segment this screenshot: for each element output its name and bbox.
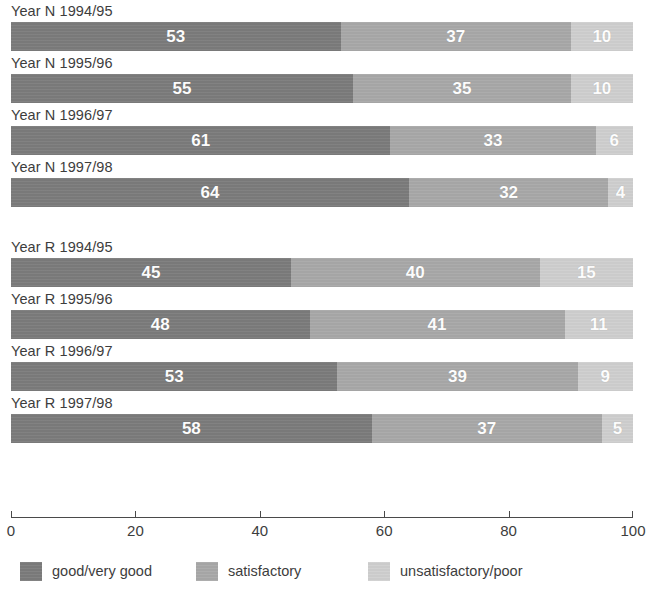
bar-track: 58375 <box>11 414 633 443</box>
bar-segment-value: 61 <box>191 132 210 149</box>
bar-segment-value: 53 <box>166 28 185 45</box>
bar-track: 533710 <box>11 22 633 51</box>
axis-tick <box>135 511 136 518</box>
bar-segment-value: 39 <box>448 368 467 385</box>
bar-segment-value: 6 <box>610 132 619 149</box>
bar-row-label: Year N 1996/97 <box>11 106 113 125</box>
bar-segment-value: 10 <box>592 28 611 45</box>
bar-segment-value: 58 <box>182 420 201 437</box>
bar-segment-good-very-good: 48 <box>11 310 310 339</box>
legend-item[interactable]: satisfactory <box>196 560 301 582</box>
bar-segment-good-very-good: 61 <box>11 126 390 155</box>
bar-track: 454015 <box>11 258 633 287</box>
legend-label: satisfactory <box>228 563 301 579</box>
axis-tick-label: 80 <box>500 522 517 539</box>
bar-segment-good-very-good: 45 <box>11 258 291 287</box>
bar-segment-unsatisfactory-poor: 10 <box>571 22 633 51</box>
bar-segment-value: 48 <box>151 316 170 333</box>
bar-row-label: Year N 1994/95 <box>11 2 113 21</box>
bar-segment-satisfactory: 41 <box>310 310 565 339</box>
bar-row-label: Year N 1997/98 <box>11 158 113 177</box>
axis-tick <box>384 511 385 518</box>
bar-row-label: Year R 1995/96 <box>11 290 113 309</box>
x-axis: 020406080100 <box>0 505 646 551</box>
legend-label: good/very good <box>52 563 152 579</box>
bar-segment-value: 4 <box>616 184 625 201</box>
legend-label: unsatisfactory/poor <box>400 563 523 579</box>
bar-track: 64324 <box>11 178 633 207</box>
bar-segment-value: 37 <box>446 28 465 45</box>
bar-row-label: Year R 1997/98 <box>11 394 113 413</box>
bar-segment-value: 11 <box>590 316 608 333</box>
bar-segment-satisfactory: 32 <box>409 178 608 207</box>
bar-segment-unsatisfactory-poor: 4 <box>608 178 633 207</box>
bar-row: Year N 1995/96553510 <box>0 54 646 106</box>
axis-tick-label: 0 <box>7 522 15 539</box>
bar-segment-satisfactory: 35 <box>353 74 571 103</box>
bar-segment-unsatisfactory-poor: 11 <box>565 310 633 339</box>
bar-segment-value: 41 <box>428 316 447 333</box>
bar-segment-value: 40 <box>406 264 425 281</box>
bar-segment-unsatisfactory-poor: 15 <box>540 258 633 287</box>
axis-tick-label: 100 <box>620 522 645 539</box>
bar-segment-value: 64 <box>201 184 220 201</box>
bar-segment-unsatisfactory-poor: 6 <box>596 126 633 155</box>
axis-tick <box>509 511 510 518</box>
bar-segment-satisfactory: 33 <box>390 126 595 155</box>
bar-row: Year N 1994/95533710 <box>0 2 646 54</box>
bar-segment-value: 33 <box>484 132 503 149</box>
bar-segment-value: 45 <box>141 264 160 281</box>
bar-segment-value: 32 <box>499 184 518 201</box>
plot-area: Year N 1994/95533710Year N 1995/96553510… <box>0 0 646 500</box>
axis-tick-label: 20 <box>127 522 144 539</box>
bar-segment-value: 37 <box>477 420 496 437</box>
bar-row: Year N 1997/9864324 <box>0 158 646 210</box>
bar-track: 53399 <box>11 362 633 391</box>
bar-segment-satisfactory: 40 <box>291 258 540 287</box>
bar-segment-good-very-good: 58 <box>11 414 372 443</box>
legend-item[interactable]: unsatisfactory/poor <box>368 560 523 582</box>
bar-segment-satisfactory: 37 <box>341 22 571 51</box>
axis-tick <box>260 511 261 518</box>
bar-segment-value: 15 <box>577 264 596 281</box>
bar-segment-unsatisfactory-poor: 5 <box>602 414 633 443</box>
bar-segment-value: 35 <box>452 80 471 97</box>
axis-tick-label: 40 <box>251 522 268 539</box>
bar-segment-satisfactory: 39 <box>337 362 577 391</box>
bar-row: Year R 1997/9858375 <box>0 394 646 446</box>
bar-row-label: Year R 1994/95 <box>11 238 113 257</box>
axis-line <box>11 517 633 518</box>
bar-segment-satisfactory: 37 <box>372 414 602 443</box>
bar-row-label: Year N 1995/96 <box>11 54 113 73</box>
axis-tick-label: 60 <box>376 522 393 539</box>
bar-segment-unsatisfactory-poor: 9 <box>578 362 633 391</box>
bar-segment-value: 53 <box>165 368 184 385</box>
axis-tick <box>11 511 12 518</box>
legend-item[interactable]: good/very good <box>20 560 152 582</box>
bar-segment-good-very-good: 55 <box>11 74 353 103</box>
bar-row: Year R 1995/96484111 <box>0 290 646 342</box>
bar-segment-value: 9 <box>601 368 610 385</box>
bar-segment-good-very-good: 53 <box>11 362 337 391</box>
legend-swatch-icon <box>196 562 218 581</box>
bar-segment-good-very-good: 53 <box>11 22 341 51</box>
bar-segment-value: 10 <box>592 80 611 97</box>
bar-track: 61336 <box>11 126 633 155</box>
bar-track: 553510 <box>11 74 633 103</box>
axis-tick <box>632 511 633 518</box>
bar-row: Year R 1996/9753399 <box>0 342 646 394</box>
bar-segment-value: 5 <box>613 420 622 437</box>
bar-segment-unsatisfactory-poor: 10 <box>571 74 633 103</box>
stacked-bar-chart: Year N 1994/95533710Year N 1995/96553510… <box>0 0 646 606</box>
bar-row-label: Year R 1996/97 <box>11 342 113 361</box>
bar-track: 484111 <box>11 310 633 339</box>
legend-swatch-icon <box>20 562 42 581</box>
chart-legend: good/very goodsatisfactoryunsatisfactory… <box>0 560 646 590</box>
bar-segment-good-very-good: 64 <box>11 178 409 207</box>
bar-row: Year R 1994/95454015 <box>0 238 646 290</box>
legend-swatch-icon <box>368 562 390 581</box>
bar-row: Year N 1996/9761336 <box>0 106 646 158</box>
bar-segment-value: 55 <box>173 80 192 97</box>
